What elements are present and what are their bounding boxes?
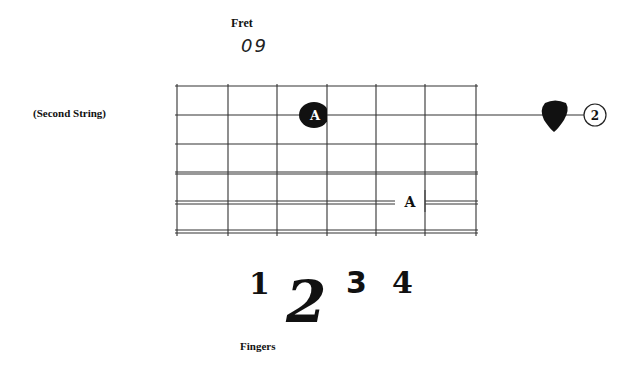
guitar-pick-icon [542, 101, 568, 133]
finger-2-highlighted: 2 [286, 268, 326, 336]
finger-3: 3 [346, 265, 367, 300]
fret-lines [177, 84, 476, 236]
finger-1: 1 [249, 266, 270, 301]
string-number: 2 [591, 109, 599, 123]
finger-4: 4 [392, 265, 413, 300]
string-lines [175, 86, 584, 233]
fingers-label: Fingers [240, 340, 275, 352]
target-note-label: A [404, 194, 417, 210]
fretted-note-label: A [309, 108, 321, 123]
